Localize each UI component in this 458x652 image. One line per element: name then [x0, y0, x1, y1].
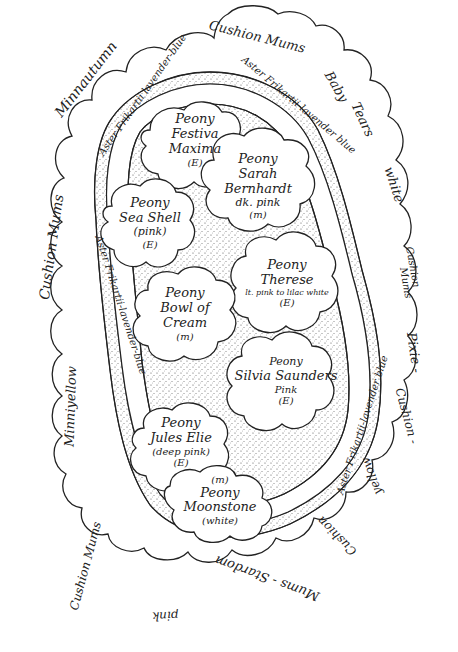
peony-label: Peony — [172, 486, 268, 501]
peony-variety: Sea Shell — [108, 211, 192, 226]
peony-variety: Therese — [232, 273, 342, 288]
peony-variety-2: Cream — [140, 316, 230, 331]
bloom-time: (m) — [140, 331, 230, 343]
bloom-time: (m) — [208, 209, 308, 221]
bloom-time: (E) — [226, 395, 346, 407]
label-minniyellow: Minniyellow — [62, 366, 78, 447]
bloom-time: (E) — [108, 239, 192, 251]
peony-color: (pink) — [108, 226, 192, 239]
peony-variety: Jules Elie — [136, 431, 226, 446]
peony-variety: Festiva — [150, 127, 240, 142]
peony-label: Peony — [108, 196, 192, 211]
peony-label: Peony — [136, 416, 226, 431]
peony-bowl-of-cream: Peony Bowl of Cream (m) — [140, 286, 230, 342]
peony-label: Peony — [208, 152, 308, 167]
bloom-time: (m) — [172, 474, 268, 486]
peony-variety: Bowl of — [140, 301, 230, 316]
peony-label: Peony — [150, 112, 240, 127]
peony-variety-2: Bernhardt — [208, 182, 308, 197]
peony-moonstone: (m) Peony Moonstone (white) — [172, 474, 268, 527]
peony-color: Pink — [226, 384, 346, 396]
peony-color: (white) — [172, 515, 268, 527]
bloom-time: (E) — [232, 297, 342, 309]
peony-color: dk. pink — [208, 197, 308, 210]
label-pink: pink — [152, 610, 179, 623]
bloom-time: (E) — [136, 457, 226, 469]
peony-color: (deep pink) — [136, 446, 226, 458]
peony-label: Peony — [140, 286, 230, 301]
peony-jules-elie: Peony Jules Elie (deep pink) (E) — [136, 416, 226, 469]
peony-variety: Silvia Saunders — [226, 369, 346, 384]
peony-silvia-saunders: Peony Silvia Saunders Pink (E) — [226, 356, 346, 407]
peony-therese: Peony Therese lt. pink to lilac white (E… — [232, 258, 342, 309]
peony-sarah-bernhardt: Peony Sarah Bernhardt dk. pink (m) — [208, 152, 308, 221]
peony-label: Peony — [232, 258, 342, 273]
peony-label: Peony — [226, 356, 346, 369]
peony-sea-shell: Peony Sea Shell (pink) (E) — [108, 196, 192, 250]
peony-color: lt. pink to lilac white — [232, 288, 342, 297]
peony-variety: Sarah — [208, 167, 308, 182]
peony-variety: Moonstone — [172, 500, 268, 515]
